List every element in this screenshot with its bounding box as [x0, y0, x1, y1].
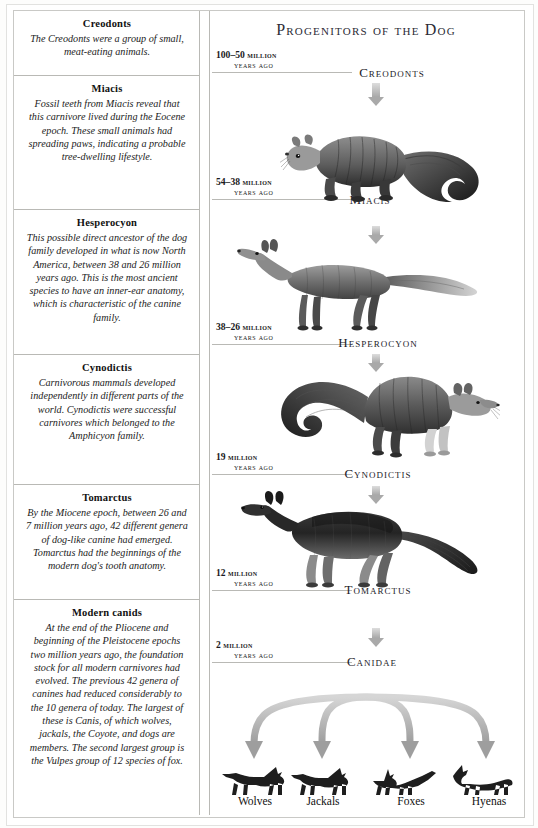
species-name-cynodictis: Cynodictis — [258, 466, 498, 482]
era-range: 54–38 — [216, 176, 240, 187]
jackal-silhouette-icon — [290, 765, 356, 797]
text-entry-cynodictis: Cynodictis Carnivorous mammals developed… — [14, 355, 200, 485]
entry-heading: Creodonts — [26, 17, 188, 31]
text-entry-modern-canids: Modern canids At the end of the Pliocene… — [14, 600, 200, 815]
era-range: 100–50 — [216, 49, 245, 60]
descendant-label-wolves: Wolves — [220, 795, 290, 807]
text-entry-creodonts: Creodonts The Creodonts were a group of … — [14, 11, 200, 76]
entry-heading: Tomarctus — [26, 491, 188, 505]
descendant-label-jackals: Jackals — [288, 795, 358, 807]
canidae-branch-arrows — [210, 671, 522, 771]
era-unit: million — [242, 178, 271, 187]
tomarctus-illustration — [238, 489, 500, 593]
species-name-canidae: Canidae — [252, 654, 492, 670]
text-column: Creodonts The Creodonts were a group of … — [14, 11, 200, 815]
text-entry-hesperocyon: Hesperocyon This possible direct ancesto… — [14, 210, 200, 355]
entry-body: The Creodonts were a group of small, mea… — [26, 32, 188, 59]
cynodictis-illustration — [272, 359, 500, 463]
era-range: 2 — [216, 639, 221, 650]
hesperocyon-illustration — [236, 233, 501, 338]
page-title: Progenitors of the Dog — [210, 21, 522, 39]
entry-heading: Modern canids — [26, 606, 188, 620]
descendant-label-hyenas: Hyenas — [454, 795, 524, 807]
era-range: 19 — [216, 451, 226, 462]
diagram-panel: Progenitors of the Dog 100–50 million ye… — [210, 11, 522, 815]
entry-body: Carnivorous mammals developed independen… — [26, 376, 188, 442]
entry-heading: Miacis — [26, 82, 188, 96]
entry-heading: Hesperocyon — [26, 216, 188, 230]
entry-body: At the end of the Pliocene and beginning… — [26, 621, 188, 767]
era-unit: million — [247, 51, 276, 60]
entry-body: Fossil teeth from Miacis reveal that thi… — [26, 97, 188, 163]
text-entry-miacis: Miacis Fossil teeth from Miacis reveal t… — [14, 76, 200, 210]
hyena-silhouette-icon — [450, 763, 516, 797]
species-name-creodonts: Creodonts — [272, 65, 512, 81]
era-unit: million — [228, 453, 257, 462]
descendant-label-foxes: Foxes — [376, 795, 446, 807]
miacis-illustration — [280, 111, 492, 203]
illustration-page: Creodonts The Creodonts were a group of … — [0, 0, 538, 828]
era-range: 12 — [216, 567, 226, 578]
era-unit: million — [223, 641, 252, 650]
entry-body: This possible direct ancestor of the dog… — [26, 231, 188, 324]
entry-heading: Cynodictis — [26, 361, 188, 375]
arrow-down-icon — [368, 628, 384, 647]
arrow-down-icon — [368, 83, 384, 106]
wolf-silhouette-icon — [220, 763, 290, 797]
entry-body: By the Miocene epoch, between 26 and 7 m… — [26, 506, 188, 572]
text-entry-tomarctus: Tomarctus By the Miocene epoch, between … — [14, 485, 200, 600]
fox-silhouette-icon — [370, 767, 438, 797]
